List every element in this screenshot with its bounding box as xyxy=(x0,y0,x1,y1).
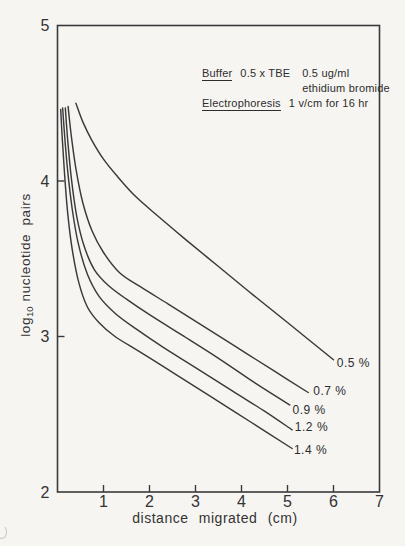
curve-1.2agarose xyxy=(63,108,293,430)
curve-0.5agarose xyxy=(76,103,334,360)
curve-1.4agarose xyxy=(61,110,292,449)
electrophoresis-value: 1 v/cm for 16 hr xyxy=(289,97,369,109)
x-tick-label: 1 xyxy=(99,493,108,510)
x-axis-title: distance migrated (cm) xyxy=(132,510,297,526)
x-tick-label: 5 xyxy=(283,493,292,510)
y-tick-label: 5 xyxy=(41,17,50,34)
x-tick-label: 4 xyxy=(237,493,246,510)
buffer-value: 0.5 x TBE xyxy=(240,67,290,79)
series-label: 0.7 % xyxy=(313,384,346,398)
series-label: 1.2 % xyxy=(295,420,328,434)
y-tick-label: 3 xyxy=(41,328,50,345)
stain-value: 0.5 ug/ml xyxy=(302,67,349,79)
y-tick-label: 4 xyxy=(41,173,50,190)
x-tick-label: 6 xyxy=(329,493,338,510)
conditions-annotation: Buffer0.5 x TBE0.5 ug/ml ethidium bromid… xyxy=(202,66,390,111)
y-axis-title-subscript: 10 xyxy=(24,306,35,317)
gel-migration-figure: 123456754320.5 %0.7 %0.9 %1.2 %1.4 % log… xyxy=(0,0,405,546)
series-label: 0.5 % xyxy=(337,356,370,370)
stain-name: ethidium bromide xyxy=(302,81,390,96)
x-tick-label: 7 xyxy=(375,493,384,510)
series-label: 1.4 % xyxy=(294,443,327,457)
series-label: 0.9 % xyxy=(293,403,326,417)
electrophoresis-line: Electrophoresis1 v/cm for 16 hr xyxy=(202,96,390,111)
x-tick-label: 3 xyxy=(191,493,200,510)
buffer-label: Buffer xyxy=(202,67,232,81)
y-tick-label: 2 xyxy=(41,484,50,501)
curve-0.7agarose xyxy=(68,106,308,392)
buffer-line: Buffer0.5 x TBE0.5 ug/ml xyxy=(202,66,390,81)
x-tick-label: 2 xyxy=(145,493,154,510)
y-axis-title-prefix: log xyxy=(18,317,33,337)
y-axis-title-rest: nucleotide pairs xyxy=(18,193,33,301)
electrophoresis-label: Electrophoresis xyxy=(202,97,281,111)
y-axis-title: log10nucleotide pairs xyxy=(18,193,35,337)
